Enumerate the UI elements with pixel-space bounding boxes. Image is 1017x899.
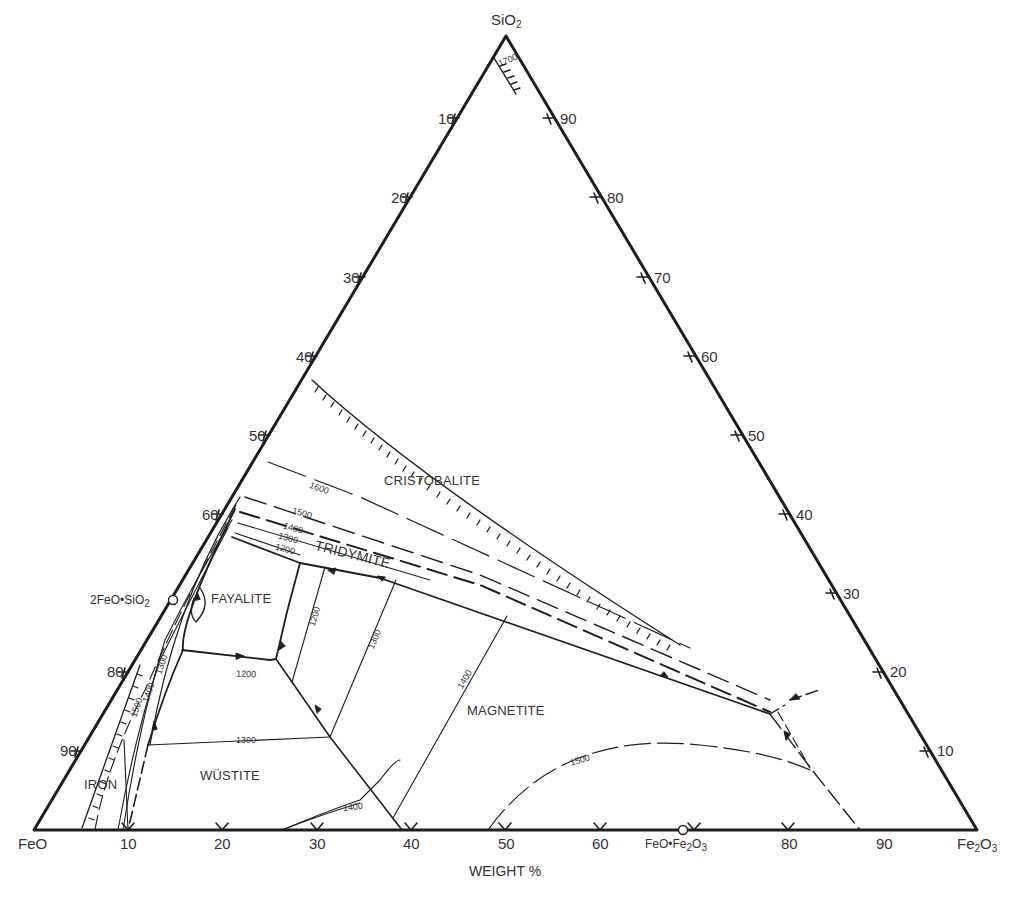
bottom-tick-40: 40: [403, 836, 420, 851]
bottom-tick-60: 60: [592, 836, 609, 851]
isotherm-1500: [245, 497, 770, 700]
fayalite-compound-label: 2FeO•SiO2: [90, 594, 150, 609]
fayalite-magnetite-boundary: [276, 563, 300, 659]
isotherm-1400-bottom: [282, 760, 400, 830]
right-tick-50: 50: [748, 428, 765, 443]
right-tick-90: 90: [560, 111, 577, 126]
wustite-magnetite-boundary: [276, 659, 402, 830]
bottom-tick-10: 10: [120, 836, 137, 851]
left-tick-10: 10: [438, 111, 455, 126]
left-dashed-wustite: [128, 745, 148, 830]
right-tick-20: 20: [890, 664, 907, 679]
vertex-sio2: SiO2: [491, 12, 522, 30]
phase-fayalite: FAYALITE: [211, 592, 271, 605]
bottom-tick-50: 50: [498, 836, 515, 851]
phase-magnetite: MAGNETITE: [467, 704, 545, 717]
left-tick-60: 60: [202, 507, 219, 522]
magnetite-compound-label: FeO•Fe2O3: [645, 838, 707, 853]
left-tick-40: 40: [296, 349, 313, 364]
isotherm-1500-magnetite: [488, 743, 810, 830]
bottom-tick-80: 80: [781, 836, 798, 851]
right-tick-60: 60: [701, 349, 718, 364]
right-tick-80: 80: [607, 190, 624, 205]
bottom-tick-20: 20: [214, 836, 231, 851]
bottom-tick-30: 30: [309, 836, 326, 851]
isotherm-label-1300-wustite: 1300: [236, 736, 256, 745]
left-tick-90: 90: [60, 743, 77, 758]
vertex-fe2o3: Fe2O3: [957, 836, 997, 854]
left-tick-30: 30: [343, 270, 360, 285]
cristobalite-hatched-boundary: [312, 380, 680, 645]
isotherm-1300-vertical: [330, 580, 396, 737]
iron-hatched-boundary: [82, 665, 140, 828]
left-tick-50: 50: [249, 428, 266, 443]
right-tick-40: 40: [796, 507, 813, 522]
bottom-tick-90: 90: [876, 836, 893, 851]
phase-cristobalite: CRISTOBALITE: [384, 474, 480, 487]
right-tick-10: 10: [937, 743, 954, 758]
phase-iron: IRON: [84, 778, 117, 791]
weight-percent-label: WEIGHT %: [469, 864, 541, 878]
left-tick-20: 20: [391, 190, 408, 205]
fayalite-point: [169, 596, 178, 605]
left-boundary-b: [148, 509, 235, 745]
right-axis-ticks: [543, 114, 931, 757]
magnetite-hematite-boundary: [770, 714, 860, 830]
left-tick-80: 80: [107, 664, 124, 679]
fayalite-wustite-boundary: [182, 650, 276, 660]
isotherm-label-1200-fayalite: 1200: [236, 669, 256, 679]
phase-wustite: WÜSTITE: [200, 769, 260, 782]
ternary-diagram: [0, 0, 1017, 899]
magnetite-point: [679, 826, 688, 835]
vertex-feo: FeO: [18, 836, 47, 851]
right-tick-30: 30: [843, 586, 860, 601]
right-tick-70: 70: [654, 270, 671, 285]
